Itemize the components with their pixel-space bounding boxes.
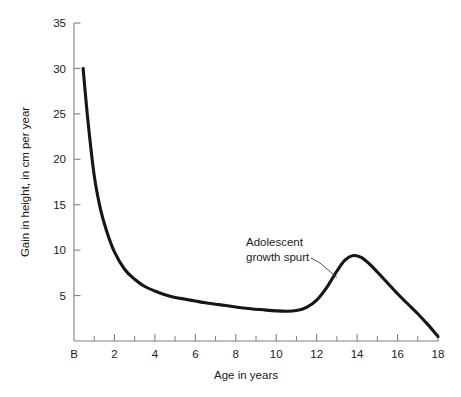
x-axis-tick-label: 4 [152, 348, 159, 360]
x-axis-tick-label: 16 [391, 348, 404, 360]
y-axis-label: Gain in height, in cm per year [19, 107, 31, 257]
x-axis-tick-label: 18 [432, 348, 445, 360]
annotation-leader-line [311, 258, 337, 277]
x-axis-tick-labels: B24681012141618 [70, 348, 444, 360]
x-axis-tick-label: 8 [233, 348, 239, 360]
x-axis-tick-label: 6 [192, 348, 198, 360]
chart-canvas: 5101520253035 B24681012141618 Adolescent… [0, 0, 461, 397]
y-axis-tick-label: 25 [53, 108, 66, 120]
adolescent-growth-spurt-annotation: Adolescent growth spurt [246, 236, 337, 277]
x-axis-tick-label: 2 [111, 348, 117, 360]
x-axis-tick-label: B [70, 348, 78, 360]
x-axis-tick-label: 12 [310, 348, 323, 360]
y-axis-tick-label: 5 [60, 290, 66, 302]
x-axis-ticks [94, 334, 438, 341]
y-axis-tick-label: 30 [53, 63, 66, 75]
y-axis-tick-labels: 5101520253035 [53, 17, 66, 302]
y-axis-tick-label: 35 [53, 17, 66, 29]
annotation-line-1: Adolescent [246, 236, 304, 248]
x-axis-label: Age in years [214, 369, 278, 381]
axes [74, 23, 438, 341]
height-velocity-curve [83, 68, 438, 336]
x-axis-tick-label: 14 [351, 348, 364, 360]
y-axis-ticks [74, 23, 81, 296]
annotation-line-2: growth spurt [246, 251, 310, 263]
y-axis-tick-label: 15 [53, 199, 66, 211]
y-axis-tick-label: 10 [53, 244, 66, 256]
y-axis-tick-label: 20 [53, 153, 66, 165]
x-axis-tick-label: 10 [270, 348, 283, 360]
